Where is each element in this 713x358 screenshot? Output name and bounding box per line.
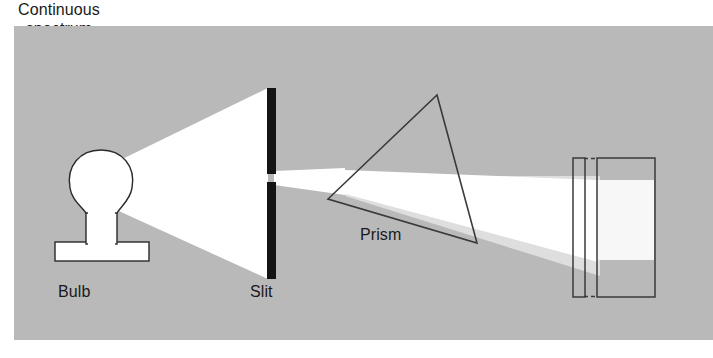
bulb-envelope [69,150,132,213]
diagram-canvas: Bulb Slit Prism Continuous spectrum [0,0,713,358]
label-prism: Prism [360,225,401,244]
label-bulb: Bulb [58,282,90,301]
bulb-foot-seam-mask [88,240,115,245]
label-slit: Slit [250,282,273,301]
optics-diagram-graphic [0,0,713,358]
bulb-seam-mask [88,209,115,215]
slit-bar-lower [267,182,276,279]
continuous-spectrum-band [598,180,654,260]
slit-barrier [267,88,276,279]
slit-bar-upper [267,88,276,174]
bulb-base [86,210,117,244]
